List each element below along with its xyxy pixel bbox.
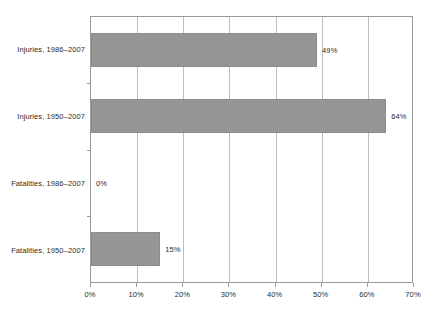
bar-track: 49% (91, 33, 412, 67)
category-label: Injuries, 1950–2007 (17, 112, 85, 121)
bar-value-label: 64% (391, 112, 406, 121)
plot-area: 49%64%0%15% (90, 16, 413, 283)
bar-value-label: 49% (322, 46, 337, 55)
bar-track: 0% (91, 166, 412, 200)
x-axis-tick-label: 0% (84, 290, 95, 299)
bar-track: 64% (91, 99, 412, 133)
category-label: Fatalities, 1986–2007 (11, 178, 85, 187)
bar-category-band: 49% (91, 17, 412, 83)
x-axis-tick-mark (275, 283, 276, 287)
x-axis-tick-mark (182, 283, 183, 287)
category-label: Injuries, 1986–2007 (17, 45, 85, 54)
x-axis-tick-mark (228, 283, 229, 287)
bar-category-band: 15% (91, 216, 412, 282)
x-axis-tick-mark (367, 283, 368, 287)
bar[interactable] (91, 33, 317, 67)
x-axis-tick-label: 70% (405, 290, 420, 299)
x-axis-tick-label: 20% (175, 290, 190, 299)
bar[interactable] (91, 99, 386, 133)
x-axis-tick-mark (413, 283, 414, 287)
x-axis-tick-label: 10% (128, 290, 143, 299)
x-axis-tick-mark (136, 283, 137, 287)
category-label: Fatalities, 1950–2007 (11, 245, 85, 254)
x-axis-tick-label: 60% (359, 290, 374, 299)
x-axis-tick-label: 30% (221, 290, 236, 299)
bar-chart-figure: 49%64%0%15% Injuries, 1986–2007Injuries,… (0, 0, 436, 317)
bar-track: 15% (91, 232, 412, 266)
bar-value-label: 15% (165, 244, 180, 253)
x-axis-tick-mark (321, 283, 322, 287)
bar-value-label: 0% (96, 178, 107, 187)
x-axis-tick-mark (90, 283, 91, 287)
x-axis-tick-label: 40% (267, 290, 282, 299)
x-axis-tick-label: 50% (313, 290, 328, 299)
bar-category-band: 0% (91, 150, 412, 216)
bar-category-band: 64% (91, 83, 412, 149)
bar[interactable] (91, 232, 160, 266)
